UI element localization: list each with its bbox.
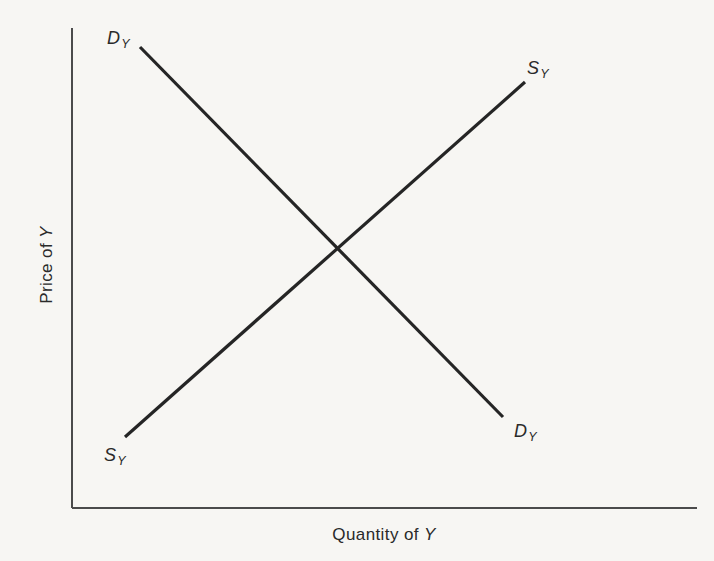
x-axis-label: Quantity ofY <box>332 525 437 544</box>
demand-curve-label-top: DY <box>107 28 131 51</box>
supply-demand-figure: DY SY SY DY Quantity ofY Price ofY <box>0 0 714 561</box>
demand-curve-label-bottom: DY <box>514 421 538 444</box>
supply-curve-label-top: SY <box>527 58 550 81</box>
supply-curve <box>125 82 525 437</box>
supply-curve-label-bottom: SY <box>104 445 127 468</box>
diagram-canvas: DY SY SY DY Quantity ofY Price ofY <box>0 0 714 561</box>
y-axis-label: Price ofY <box>37 225 56 304</box>
demand-curve <box>140 47 503 417</box>
